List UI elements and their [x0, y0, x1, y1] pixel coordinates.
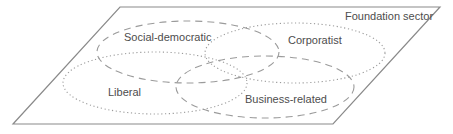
foundation-sector-label: Foundation sector	[345, 10, 433, 22]
diagram-svg: Foundation sector Social-democratic Corp…	[0, 0, 453, 134]
ellipse-business-related	[176, 56, 354, 118]
business-related-label: Business-related	[245, 93, 327, 105]
liberal-label: Liberal	[108, 86, 141, 98]
ellipse-liberal	[63, 52, 247, 114]
corporatist-label: Corporatist	[288, 34, 342, 46]
ellipse-corporatist	[205, 23, 385, 83]
social-democratic-label: Social-democratic	[124, 31, 212, 43]
foundation-sector-diagram: Foundation sector Social-democratic Corp…	[0, 0, 453, 134]
foundation-sector-plane	[13, 7, 440, 124]
